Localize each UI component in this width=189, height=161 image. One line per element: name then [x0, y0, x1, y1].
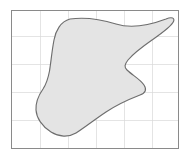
geometry-figure	[0, 0, 189, 161]
figure-container	[0, 0, 189, 161]
